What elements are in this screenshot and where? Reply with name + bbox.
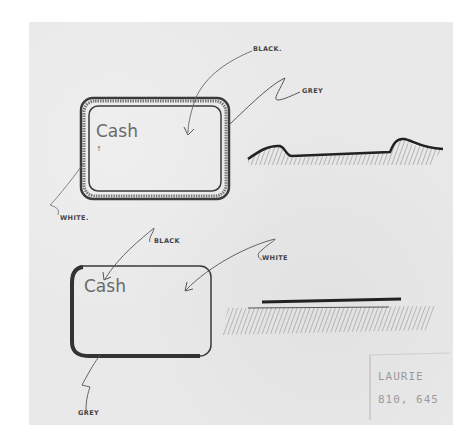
bottom-card: Cash (72, 266, 211, 356)
top-profile (248, 139, 443, 165)
label-grey-bottom: GREY (78, 409, 99, 417)
bottom-card-cash-text: Cash (84, 276, 126, 296)
annotation-white-bottom: WHITE (185, 239, 288, 291)
label-grey-top: GREY (302, 87, 323, 95)
label-white-top: WHITE. (60, 214, 89, 222)
top-card: Cash ↑ (81, 98, 229, 199)
label-black-top: BLACK. (253, 45, 282, 53)
cursor-mark: ↑ (96, 145, 102, 153)
top-card-cash-text: Cash (96, 121, 138, 141)
annotation-black-bottom: BLACK (103, 228, 180, 280)
sketch-canvas: Cash ↑ BLACK. GREY WHITE. Cash BLACK WHI… (0, 0, 473, 446)
bottom-profile (222, 299, 435, 335)
signature-number: 810, 645 (378, 393, 439, 406)
label-black-bottom: BLACK (154, 237, 180, 245)
annotation-grey-bottom: GREY (78, 355, 100, 417)
annotation-grey-top: GREY (229, 78, 323, 125)
signature-name: LAURIE (378, 370, 424, 383)
label-white-bottom: WHITE (262, 254, 288, 262)
signature-note: LAURIE 810, 645 (370, 353, 450, 420)
